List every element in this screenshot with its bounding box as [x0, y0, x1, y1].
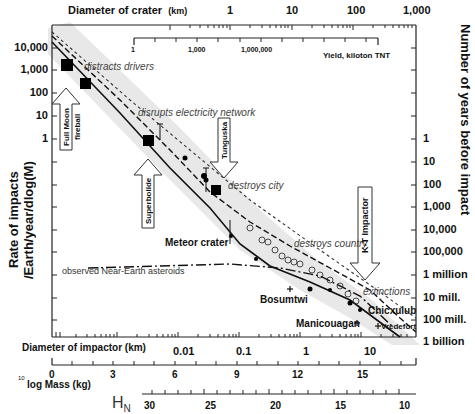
- right-tick-1000: 1,000: [423, 200, 451, 212]
- diam-tick-0.1: 0.1: [236, 345, 251, 357]
- left-tick-10: 10: [36, 109, 48, 121]
- yield-tick-1000: 1,000: [188, 46, 206, 53]
- diam-tick-10: 10: [364, 345, 376, 357]
- mass-superscript: 10: [18, 375, 25, 381]
- hn-tick-20: 20: [270, 400, 281, 411]
- label-full-moon-fireball: Full Moon fireball: [61, 104, 72, 150]
- annotation-destroys-country: destroys country: [294, 238, 367, 249]
- right-tick-10: 10: [423, 155, 435, 167]
- diameter-axis-title: Diameter of impactor (km): [22, 342, 146, 353]
- top-tick-1: 1: [227, 4, 233, 16]
- hn-tick-25: 25: [205, 400, 216, 411]
- point-2: [80, 78, 91, 89]
- hn-label: HN: [112, 394, 131, 414]
- annotation-disrupts-electricity: disrupts electricity network: [138, 107, 255, 118]
- top-axis-title: Diameter of crater (km): [68, 4, 187, 16]
- superbolide-point: [143, 135, 154, 146]
- left-tick-10000: 10,000: [14, 41, 48, 53]
- annotation-distracts-drivers: distracts drivers: [84, 61, 154, 72]
- label-kt-impactor: K-T Impactor: [359, 188, 372, 263]
- right-tick-10000: 10,000: [423, 223, 457, 235]
- mass-tick-3: 3: [110, 369, 116, 380]
- left-tick-1: 1: [42, 132, 48, 144]
- right-tick-100000: 100,000: [423, 245, 463, 257]
- yield-axis-label: Yield, kiloton TNT: [323, 51, 390, 60]
- mass-tick-6: 6: [172, 369, 178, 380]
- label-neo: observed Near-Earth asteroids: [62, 266, 185, 276]
- left-axis-title: Rate of impacts /Earth/year/dlog(M): [6, 120, 36, 320]
- label-chicxulub: Chicxulub: [368, 305, 416, 316]
- label-bosumtwi: Bosumtwi: [260, 294, 308, 305]
- annotation-extinctions: extinctions: [363, 286, 410, 297]
- right-tick-1: 1: [423, 132, 429, 144]
- top-tick-100: 100: [347, 4, 365, 16]
- yield-tick-1000000: 1,000,000: [241, 46, 272, 53]
- right-tick-100mill: 100 mill.: [423, 313, 466, 325]
- label-manicouagan: Manicouagan: [296, 318, 360, 329]
- yield-tick-1: 1: [131, 46, 135, 53]
- mass-tick-9: 9: [234, 369, 240, 380]
- hn-tick-10: 10: [399, 400, 410, 411]
- top-tick-1000: 1,000: [403, 4, 431, 16]
- right-tick-10mill: 10 mill.: [423, 291, 460, 303]
- label-meteor-crater: Meteor crater: [165, 237, 228, 248]
- mass-tick-15: 15: [357, 369, 368, 380]
- label-vredefort: Vredefort: [381, 322, 416, 331]
- annotation-destroys-city: destroys city: [228, 180, 284, 191]
- hn-tick-15: 15: [335, 400, 346, 411]
- full-moon-point: [61, 59, 73, 71]
- mass-axis-title: log Mass (kg): [27, 379, 91, 390]
- label-superbolide: Superbolide: [143, 175, 154, 227]
- diam-tick-0.01: 0.01: [173, 345, 194, 357]
- hn-tick-30: 30: [144, 400, 155, 411]
- left-tick-1000: 1,000: [20, 63, 48, 75]
- right-tick-100: 100: [423, 178, 441, 190]
- mass-tick-12: 12: [292, 369, 303, 380]
- top-tick-10: 10: [286, 4, 298, 16]
- right-tick-1million: 1 million: [423, 268, 468, 280]
- tunguska-point: [211, 185, 221, 195]
- left-tick-100: 100: [30, 86, 48, 98]
- right-tick-1billion: 1 billion: [423, 335, 465, 347]
- diam-tick-1: 1: [303, 345, 309, 357]
- label-tunguska: Tunguska: [219, 119, 230, 162]
